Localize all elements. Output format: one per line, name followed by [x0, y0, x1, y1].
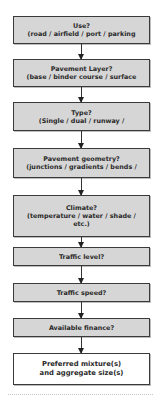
step-use: Use? (road / airfield / port / parking — [13, 16, 150, 44]
step-detail: (road / airfield / port / parking — [28, 30, 136, 38]
step-title: Pavement geometry? — [43, 155, 120, 163]
dotted-divider — [8, 394, 153, 396]
step-title: Preferred mixture(s) — [42, 360, 121, 369]
step-traffic-level: Traffic level? — [13, 247, 150, 266]
step-type: Type? (Single / dual / runway / — [13, 102, 150, 131]
arrow-connector — [81, 302, 82, 318]
step-detail: (Single / dual / runway / — [39, 117, 125, 125]
step-climate: Climate? (temperature / water / shade / … — [13, 195, 150, 237]
step-detail: and aggregate size(s) — [40, 369, 124, 378]
arrow-connector — [81, 131, 82, 148]
step-title: Available finance? — [49, 324, 114, 332]
step-title: Use? — [73, 22, 90, 30]
step-available-finance: Available finance? — [13, 318, 150, 337]
arrow-connector — [81, 178, 82, 195]
step-title: Climate? — [66, 204, 97, 212]
step-title: Traffic level? — [59, 253, 104, 261]
step-title: Type? — [71, 109, 91, 117]
step-pavement-geometry: Pavement geometry? (junctions / gradient… — [13, 148, 150, 178]
step-preferred-mixture: Preferred mixture(s) and aggregate size(… — [13, 353, 150, 385]
step-detail: (base / binder course / surface — [27, 73, 137, 81]
step-detail: (junctions / gradients / bends / — [26, 163, 137, 171]
step-title: Pavement Layer? — [51, 65, 113, 73]
arrow-connector — [81, 266, 82, 283]
step-detail: (temperature / water / shade / — [27, 212, 136, 220]
arrow-connector — [81, 87, 82, 102]
step-pavement-layer: Pavement Layer? (base / binder course / … — [13, 59, 150, 87]
step-detail: etc.) — [73, 220, 90, 228]
arrow-connector — [81, 337, 82, 353]
arrow-connector — [81, 44, 82, 59]
step-traffic-speed: Traffic speed? — [13, 283, 150, 302]
step-title: Traffic speed? — [57, 289, 107, 297]
arrow-connector — [81, 237, 82, 247]
